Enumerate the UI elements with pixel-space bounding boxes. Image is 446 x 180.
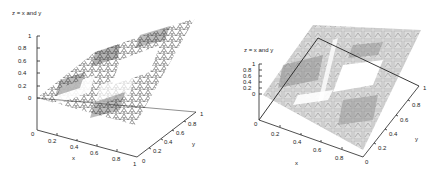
right-x-tick: 0.2 (271, 131, 279, 137)
left-y-tick: 0.4 (164, 139, 172, 145)
right-plot-canvas (223, 0, 446, 180)
right-y-label: y (415, 136, 418, 142)
right-x-tick: 0 (254, 121, 257, 127)
right-y-tick: 0.6 (400, 117, 408, 123)
right-y-tick: 0.8 (412, 102, 420, 108)
left-plot-canvas (0, 0, 223, 180)
left-x-tick: 0.4 (70, 144, 78, 150)
left-x-tick: 0.6 (90, 150, 98, 156)
right-y-tick: 0.2 (378, 145, 386, 151)
right-x-label: x (295, 160, 298, 166)
left-x-tick: 0 (31, 131, 34, 137)
left-z-tick: 0.8 (18, 45, 26, 51)
left-z-tick: 0 (28, 95, 31, 101)
left-y-tick: 0.6 (176, 130, 184, 136)
right-y-tick: 1 (423, 85, 426, 91)
left-z-tick: 0.6 (18, 58, 26, 64)
right-y-tick: 0.4 (389, 131, 397, 137)
right-x-tick: 0.8 (335, 155, 343, 161)
left-x-tick: 0.8 (112, 156, 120, 162)
right-x-tick: 0.4 (293, 139, 301, 145)
left-x-label: x (72, 155, 75, 161)
right-x-tick: 0.6 (313, 147, 321, 153)
right-plot-title: z = x and y (244, 47, 273, 53)
left-plot-title: z = x and y (12, 10, 41, 16)
right-z-tick: 1 (252, 61, 255, 67)
right-y-tick: 0 (365, 159, 368, 165)
left-z-tick: 0.4 (18, 70, 26, 76)
left-x-tick: 0.2 (48, 138, 56, 144)
left-y-tick: 0.8 (188, 121, 196, 127)
left-y-tick: 0 (142, 158, 145, 164)
left-y-tick: 1 (200, 111, 203, 117)
left-y-label: y (192, 141, 195, 147)
right-plot: z = x and y 1 0.8 0.6 0.4 0.2 0 0 0.2 0.… (223, 0, 446, 180)
left-y-tick: 0.2 (153, 148, 161, 154)
left-x-tick: 1 (133, 161, 136, 167)
left-fractal-surface (37, 18, 195, 125)
left-z-tick: 0.2 (18, 83, 26, 89)
right-z-tick: 0 (252, 91, 255, 97)
left-plot: z = x and y 1 0.8 0.6 0.4 0.2 0 0 0.2 0.… (0, 0, 223, 180)
right-z-tick: 0.2 (243, 85, 251, 91)
left-z-tick: 1 (28, 33, 31, 39)
